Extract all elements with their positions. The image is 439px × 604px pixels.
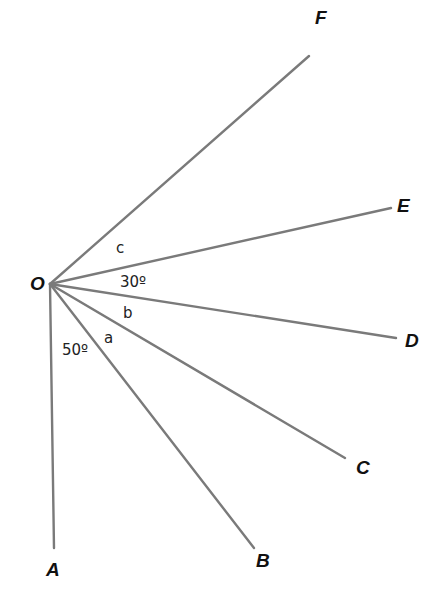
- point-label-c: C: [356, 458, 370, 477]
- angle-label-doe: 30º: [120, 275, 146, 290]
- angle-label-aob: 50º: [62, 343, 88, 358]
- ray-OF: [50, 56, 309, 284]
- angle-label-eof: c: [116, 241, 124, 256]
- ray-OE: [50, 208, 391, 284]
- angle-label-cod: b: [123, 306, 133, 321]
- ray-OA: [50, 284, 54, 548]
- point-label-e: E: [397, 196, 410, 215]
- point-label-d: D: [405, 331, 419, 350]
- ray-OD: [50, 284, 396, 338]
- point-label-b: B: [256, 551, 270, 570]
- point-label-f: F: [315, 8, 327, 27]
- ray-OC: [50, 284, 345, 458]
- point-label-a: A: [46, 560, 60, 579]
- angle-diagram: [0, 0, 439, 604]
- point-label-o: O: [30, 274, 45, 293]
- angle-label-boc: a: [104, 331, 113, 346]
- ray-OB: [50, 284, 254, 548]
